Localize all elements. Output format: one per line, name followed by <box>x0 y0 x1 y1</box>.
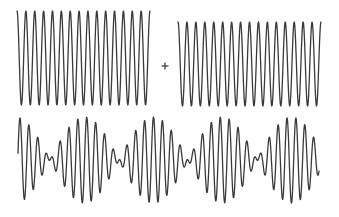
plus-icon <box>162 63 169 70</box>
beats-diagram: + <box>0 0 339 217</box>
sine-wave-2 <box>178 22 321 106</box>
beat-wave-sum <box>18 117 319 203</box>
sine-wave-1 <box>17 11 150 105</box>
